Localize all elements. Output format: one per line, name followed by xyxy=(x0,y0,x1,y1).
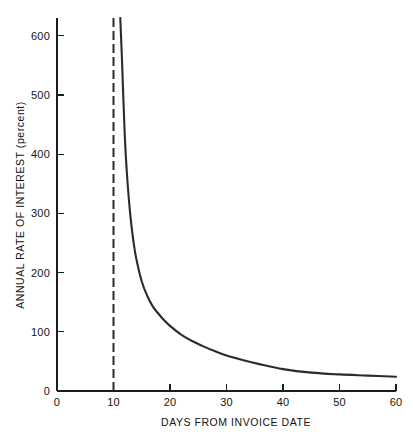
x-tick-label-50: 50 xyxy=(333,396,346,408)
y-tick-label-500: 500 xyxy=(31,89,50,101)
x-tick-label-40: 40 xyxy=(277,396,290,408)
y-tick-label-400: 400 xyxy=(31,148,50,160)
y-tick-label-100: 100 xyxy=(31,326,50,338)
y-tick-label-0: 0 xyxy=(44,385,50,397)
interest-rate-decay-chart: 0100200300400500600 0102030405060 DAYS F… xyxy=(0,0,413,440)
y-tick-label-600: 600 xyxy=(31,30,50,42)
x-tick-label-60: 60 xyxy=(390,396,403,408)
x-tick-label-0: 0 xyxy=(54,396,60,408)
x-tick-label-20: 20 xyxy=(164,396,177,408)
x-axis-title: DAYS FROM INVOICE DATE xyxy=(161,416,311,428)
x-tick-label-10: 10 xyxy=(107,396,120,408)
y-tick-label-200: 200 xyxy=(31,267,50,279)
chart-figure: 0100200300400500600 0102030405060 DAYS F… xyxy=(0,0,413,440)
y-axis-title: ANNUAL RATE OF INTEREST (percent) xyxy=(14,101,26,309)
y-tick-label-300: 300 xyxy=(31,207,50,219)
x-tick-label-30: 30 xyxy=(220,396,233,408)
